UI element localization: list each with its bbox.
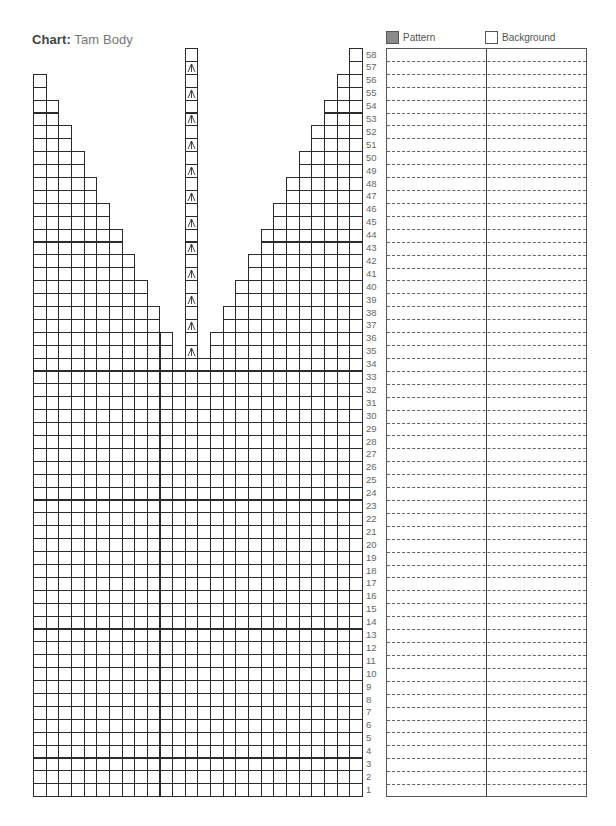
filled-swatch-icon <box>386 31 399 44</box>
chart-cell <box>273 719 287 733</box>
chart-cell <box>33 435 47 449</box>
chart-cell <box>337 267 351 281</box>
chart-cell <box>185 358 199 372</box>
chart-cell <box>134 745 148 759</box>
chart-cell <box>71 177 85 191</box>
chart-cell <box>210 603 224 617</box>
chart-cell <box>172 745 186 759</box>
chart-cell <box>311 590 325 604</box>
chart-cell <box>96 706 110 720</box>
row-number: 8 <box>366 694 371 706</box>
chart-cell <box>210 616 224 630</box>
chart-cell <box>33 358 47 372</box>
chart-cell <box>46 719 60 733</box>
chart-cell <box>46 267 60 281</box>
chart-cell <box>273 745 287 759</box>
chart-cell <box>172 487 186 501</box>
row-number: 32 <box>366 384 377 396</box>
chart-cell <box>71 732 85 746</box>
chart-cell <box>197 680 211 694</box>
chart-cell <box>71 603 85 617</box>
chart-cell <box>273 758 287 772</box>
chart-cell <box>172 551 186 565</box>
chart-cell <box>337 138 351 152</box>
chart-cell <box>286 319 300 333</box>
chart-cell <box>46 100 60 114</box>
chart-cell <box>33 113 47 127</box>
row-number: 6 <box>366 719 371 731</box>
chart-cell <box>84 448 98 462</box>
chart-cell <box>147 474 161 488</box>
chart-cell <box>84 474 98 488</box>
chart-cell <box>349 242 363 256</box>
chart-cell <box>235 500 249 514</box>
chart-cell <box>273 409 287 423</box>
chart-cell <box>96 783 110 797</box>
chart-cell <box>311 216 325 230</box>
chart-cell <box>299 190 313 204</box>
chart-cell <box>71 371 85 385</box>
chart-cell <box>46 358 60 372</box>
chart-cell <box>286 641 300 655</box>
chart-cell <box>46 525 60 539</box>
chart-cell <box>286 538 300 552</box>
chart-cell <box>109 461 123 475</box>
chart-cell <box>311 512 325 526</box>
chart-cell <box>185 745 199 759</box>
chart-cell <box>185 551 199 565</box>
chart-cell <box>33 758 47 772</box>
chart-cell <box>311 254 325 268</box>
chart-cell <box>46 667 60 681</box>
chart-cell <box>33 125 47 139</box>
chart-cell <box>337 113 351 127</box>
chart-cell <box>299 229 313 243</box>
chart-cell <box>235 358 249 372</box>
chart-cell <box>337 216 351 230</box>
chart-cell <box>160 512 174 526</box>
chart-cell <box>235 551 249 565</box>
chart-cell <box>185 242 199 256</box>
chart-cell <box>147 435 161 449</box>
decrease-arrow-icon <box>187 218 196 228</box>
chart-cell <box>273 461 287 475</box>
chart-cell <box>324 474 338 488</box>
chart-cell <box>160 461 174 475</box>
chart-cell <box>349 113 363 127</box>
chart-cell <box>349 358 363 372</box>
chart-cell <box>185 783 199 797</box>
row-number: 38 <box>366 307 377 319</box>
chart-cell <box>172 422 186 436</box>
chart-cell <box>71 306 85 320</box>
chart-cell <box>160 474 174 488</box>
chart-cell <box>96 641 110 655</box>
chart-cell <box>299 758 313 772</box>
chart-cell <box>210 474 224 488</box>
chart-cell <box>71 500 85 514</box>
chart-cell <box>109 616 123 630</box>
chart-cell <box>349 616 363 630</box>
chart-cell <box>134 603 148 617</box>
chart-cell <box>324 177 338 191</box>
chart-cell <box>197 422 211 436</box>
chart-cell <box>46 590 60 604</box>
chart-cell <box>337 74 351 88</box>
chart-cell <box>324 538 338 552</box>
notes-line <box>387 590 586 591</box>
chart-cell <box>349 87 363 101</box>
chart-cell <box>248 461 262 475</box>
chart-cell <box>33 590 47 604</box>
row-number: 49 <box>366 165 377 177</box>
chart-cell <box>210 448 224 462</box>
chart-cell <box>299 629 313 643</box>
chart-cell <box>273 358 287 372</box>
chart-cell <box>147 512 161 526</box>
notes-line <box>387 319 586 320</box>
chart-cell <box>311 770 325 784</box>
chart-cell <box>349 435 363 449</box>
chart-cell <box>273 332 287 346</box>
chart-cell <box>96 500 110 514</box>
chart-cell <box>109 590 123 604</box>
chart-cell <box>71 435 85 449</box>
chart-cell <box>122 525 136 539</box>
chart-cell <box>248 306 262 320</box>
